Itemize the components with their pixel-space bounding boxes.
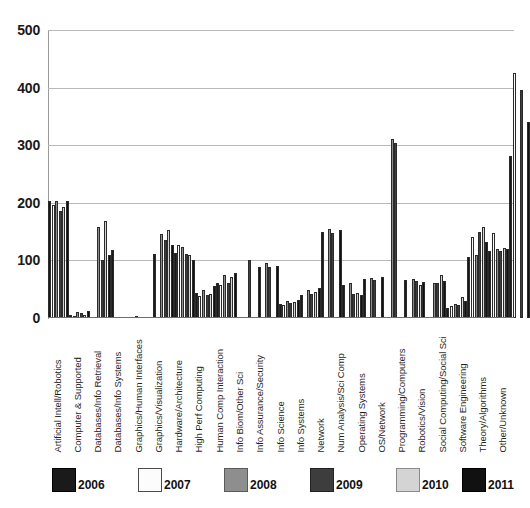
bar xyxy=(52,205,55,318)
bar xyxy=(223,275,226,318)
bar xyxy=(404,280,407,318)
bar xyxy=(289,303,292,318)
legend-label: 2009 xyxy=(336,479,363,492)
bar xyxy=(177,245,180,318)
bar xyxy=(293,302,296,318)
legend-swatch-2010 xyxy=(396,468,420,492)
x-tick-label: Info Systems xyxy=(295,398,305,452)
x-tick-label: Other/Unknown xyxy=(498,387,508,452)
bar xyxy=(268,267,271,318)
bar xyxy=(62,207,65,318)
legend-label: 2011 xyxy=(488,479,514,492)
bar-group xyxy=(363,30,384,318)
bar-group xyxy=(279,30,300,318)
bar xyxy=(216,283,219,318)
bar-chart: 0100200300400500 Artificial Intell/Robot… xyxy=(0,0,520,340)
bar xyxy=(185,254,188,319)
bar xyxy=(328,229,331,318)
plot-area xyxy=(48,30,514,318)
bar xyxy=(373,280,376,318)
bar xyxy=(342,285,345,318)
bar xyxy=(230,277,233,318)
bar xyxy=(412,279,415,318)
legend-item-2009: 2009 xyxy=(310,468,363,492)
bar-group xyxy=(216,30,237,318)
bar-group xyxy=(342,30,363,318)
bar xyxy=(258,267,261,318)
y-tick-400: 400 xyxy=(17,81,40,95)
bar-group xyxy=(90,30,111,318)
x-tick-label: Theory/Algorithms xyxy=(478,377,488,452)
bar xyxy=(321,232,324,318)
bar xyxy=(248,260,251,318)
bar xyxy=(419,285,422,318)
x-tick-label: Network xyxy=(316,418,326,452)
legend-item-2006: 2006 xyxy=(52,468,105,492)
bar xyxy=(492,233,495,318)
legend-swatch-2011 xyxy=(462,468,486,492)
bar xyxy=(509,156,512,318)
bar-group xyxy=(111,30,132,318)
bar-group xyxy=(488,30,509,318)
bar xyxy=(331,233,334,318)
bar xyxy=(227,283,230,318)
bar-group xyxy=(509,30,530,318)
legend-swatch-2006 xyxy=(52,468,76,492)
x-tick-label: Info Science xyxy=(275,401,285,452)
x-tick-label: Computer & Supported xyxy=(72,357,82,452)
bar xyxy=(206,295,209,318)
bar xyxy=(475,255,478,318)
bar xyxy=(467,257,470,318)
bar xyxy=(352,294,355,318)
y-tick-0: 0 xyxy=(32,311,40,325)
legend-swatch-2007 xyxy=(138,468,162,492)
bar xyxy=(279,304,282,318)
bar xyxy=(471,237,474,318)
bar xyxy=(461,297,464,318)
bar-group xyxy=(132,30,153,318)
bar-group xyxy=(425,30,446,318)
legend-label: 2008 xyxy=(250,479,277,492)
x-axis-line xyxy=(48,317,514,318)
bar xyxy=(265,263,268,318)
bar xyxy=(286,301,289,318)
x-tick-label: Software Engineering xyxy=(457,363,467,452)
x-tick-label: Operating Systems xyxy=(356,373,366,452)
legend-swatch-2008 xyxy=(224,468,248,492)
bar xyxy=(101,260,104,318)
y-tick-500: 500 xyxy=(17,23,40,37)
y-tick-100: 100 xyxy=(17,253,40,267)
legend-item-2008: 2008 xyxy=(224,468,277,492)
x-tick-label: Info Assurance/Security xyxy=(255,354,265,452)
bar-group xyxy=(446,30,467,318)
x-tick-label: Graphics/Visualization xyxy=(153,360,163,452)
bar xyxy=(48,201,51,318)
bar xyxy=(111,250,114,318)
bar xyxy=(209,294,212,318)
bar xyxy=(219,285,222,318)
x-tick-label: Hardware/Architecture xyxy=(174,360,184,452)
bar xyxy=(356,293,359,318)
legend-item-2007: 2007 xyxy=(138,468,191,492)
y-axis-tick-labels: 0100200300400500 xyxy=(0,0,44,340)
bar xyxy=(433,283,436,318)
legend-label: 2010 xyxy=(422,479,449,492)
bar xyxy=(314,292,317,318)
bar-group xyxy=(48,30,69,318)
bar xyxy=(202,290,205,318)
bar xyxy=(300,295,303,318)
bar xyxy=(503,248,506,318)
legend-label: 2006 xyxy=(78,479,105,492)
bar xyxy=(188,255,191,318)
bar xyxy=(499,251,502,318)
bar xyxy=(363,279,366,318)
x-tick-label: Programming/Computers xyxy=(397,348,407,452)
bar xyxy=(391,139,394,318)
bar-group xyxy=(174,30,195,318)
bar xyxy=(55,201,58,319)
legend-swatch-2009 xyxy=(310,468,334,492)
bar xyxy=(394,143,397,318)
bar xyxy=(181,247,184,318)
x-tick-label: Artificial Intell/Robotics xyxy=(52,359,62,452)
bar-group xyxy=(258,30,279,318)
